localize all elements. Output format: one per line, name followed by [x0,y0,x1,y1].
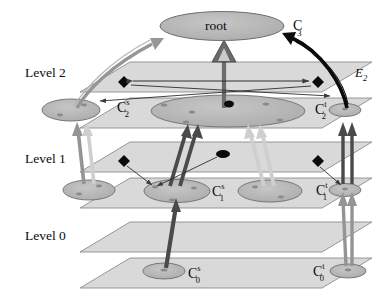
cluster-c0t-label: Ct0 [313,263,329,281]
root-node-label: root [205,19,227,33]
level-1-label: Level 1 [25,152,66,166]
cluster-c1s-ellipse [144,180,210,203]
cluster-c3-label: C3 [293,19,307,35]
cluster-c2s-label: Cs2 [117,99,134,117]
cluster-c2s-sub: 2 [125,109,129,119]
cluster-level2-center-ellipse [151,95,305,127]
cluster-c2t-sub: 2 [322,111,326,121]
cluster-c1t-sup: t [325,180,327,190]
cluster-c1s-label: Cs1 [212,183,229,201]
cluster-c0t-sub: 0 [320,273,324,283]
cluster-c2t-label: Ct2 [315,101,331,119]
edge-set-e2-sub: 2 [363,73,367,83]
cluster-c1s-sup: s [221,181,224,191]
cluster-c0s-ellipse [143,263,185,279]
cluster-c1t-sub: 1 [323,192,327,202]
level2-center-marker-dot [224,101,234,108]
edge-set-e2-label: E2 [355,66,367,82]
cluster-c2s-ellipse [42,99,100,121]
diagram-canvas [0,0,390,299]
cluster-c2s-sup: s [126,97,129,107]
cluster-c0t-ellipse [330,264,366,278]
level1-center-marker-dot [216,150,230,158]
cluster-c0s-sub: 0 [196,275,200,285]
cluster-c3-sub: 3 [297,28,301,38]
cluster-c1t-label: Ct1 [316,182,332,200]
arrow-level1-left-to-c2s-a [72,122,84,184]
level-2-label: Level 2 [25,66,66,80]
level-0-upper-plane [80,222,372,252]
hierarchical-graph-figure: Level 2 Level 1 Level 0 root C3 E2 Cs2 C… [0,0,390,299]
cluster-c0t-sup: t [322,261,324,271]
cluster-c2t-sup: t [324,99,326,109]
cluster-c1s-sub: 1 [220,193,224,203]
cluster-c0s-label: Cs0 [188,265,205,283]
edge-set-e2-base: E [355,65,363,80]
cluster-level1-right-ellipse [238,180,302,202]
cluster-c0s-sup: s [197,263,200,273]
cluster-c1t-ellipse [329,184,361,197]
cluster-level1-left-ellipse [63,180,115,200]
level-0-label: Level 0 [25,229,66,243]
